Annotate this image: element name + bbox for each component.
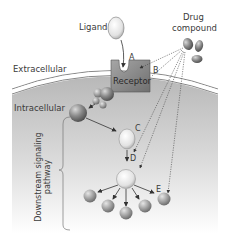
intracellular-effector	[69, 104, 87, 122]
downstream-node-2	[102, 200, 115, 213]
pathway-label-line1: Downstream signaling	[34, 127, 43, 227]
node-d	[117, 170, 136, 189]
drug-compound-label-2: compound	[172, 24, 217, 33]
drug-compound-label-1: Drug	[183, 13, 204, 22]
intracellular-label: Intracellular	[14, 104, 65, 113]
pathway-label: Downstream signaling pathway	[34, 127, 52, 227]
point-d-label: D	[130, 155, 136, 163]
drug-molecule-3	[192, 55, 203, 63]
extracellular-label: Extracellular	[13, 65, 67, 74]
receptor-label: Receptor	[113, 77, 151, 86]
downstream-node-4	[139, 200, 152, 213]
pathway-label-line2: pathway	[43, 127, 52, 227]
ligand-label: Ligand	[79, 23, 107, 32]
drug-target-diagram: Ligand Drug compound Receptor Extracellu…	[0, 0, 227, 234]
point-c-label: C	[135, 125, 141, 133]
downstream-node-1	[84, 190, 97, 203]
point-e-label: E	[156, 186, 161, 194]
drug-molecule-1	[181, 37, 195, 52]
downstream-node-3	[120, 207, 133, 220]
downstream-node-5	[158, 193, 171, 206]
ligand-shape	[108, 17, 124, 39]
point-a-label: A	[129, 54, 134, 62]
node-c	[119, 129, 135, 149]
drug-molecule-2	[194, 39, 205, 53]
point-b-label: B	[153, 67, 159, 75]
